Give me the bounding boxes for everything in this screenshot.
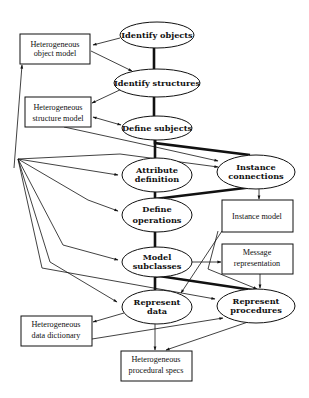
svg-text:Identify structures: Identify structures <box>114 78 201 88</box>
process-identify-structures: Identify structures <box>114 69 201 97</box>
svg-text:data: data <box>147 306 168 316</box>
svg-text:structure model: structure model <box>32 114 84 123</box>
oo-analysis-flow-diagram: Identify objects Identify structures Def… <box>0 0 309 398</box>
svg-text:Define subjects: Define subjects <box>122 123 193 133</box>
svg-text:representation: representation <box>234 259 280 268</box>
svg-text:subclasses: subclasses <box>133 261 182 271</box>
svg-text:Define: Define <box>142 204 171 214</box>
svg-text:connections: connections <box>228 171 284 181</box>
artifact-message-representation: Message representation <box>222 244 293 274</box>
process-define-operations: Define operations <box>122 198 192 232</box>
svg-text:procedural specs: procedural specs <box>129 366 184 375</box>
svg-text:Heterogeneous: Heterogeneous <box>131 355 180 364</box>
process-instance-connections: Instance connections <box>217 155 295 189</box>
process-model-subclasses: Model subclasses <box>122 247 192 277</box>
svg-text:Heterogeneous: Heterogeneous <box>33 103 82 112</box>
svg-text:operations: operations <box>133 215 182 225</box>
svg-text:Instance model: Instance model <box>232 212 283 221</box>
process-identify-objects: Identify objects <box>120 22 194 48</box>
process-attribute-definition: Attribute definition <box>122 158 192 192</box>
artifact-heterogeneous-procedural-specs: Heterogeneous procedural specs <box>121 351 192 381</box>
process-represent-procedures: Represent procedures <box>217 289 295 323</box>
artifact-heterogeneous-data-dictionary: Heterogeneous data dictionary <box>21 316 92 346</box>
svg-text:data dictionary: data dictionary <box>32 331 82 340</box>
svg-text:Heterogeneous: Heterogeneous <box>31 320 80 329</box>
artifact-heterogeneous-object-model: Heterogeneous object model <box>20 34 90 64</box>
artifact-heterogeneous-structure-model: Heterogeneous structure model <box>25 97 91 127</box>
svg-text:Identify objects: Identify objects <box>121 30 193 40</box>
process-represent-data: Represent data <box>122 290 192 324</box>
svg-text:procedures: procedures <box>230 305 282 315</box>
process-define-subjects: Define subjects <box>122 116 193 140</box>
svg-text:Heterogeneous: Heterogeneous <box>30 40 79 49</box>
svg-text:definition: definition <box>135 174 179 184</box>
svg-text:Message: Message <box>243 248 272 257</box>
svg-text:object model: object model <box>34 49 77 58</box>
artifact-instance-model: Instance model <box>222 200 293 232</box>
